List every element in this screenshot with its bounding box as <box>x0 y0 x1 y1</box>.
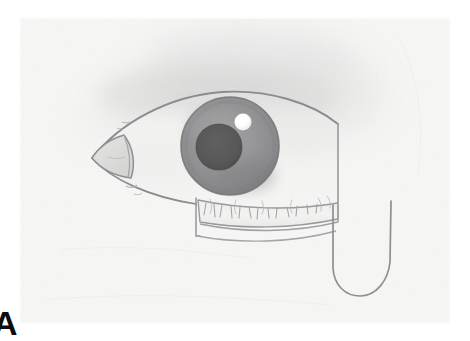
specular-highlight <box>235 114 252 131</box>
panel-label-a: A <box>0 306 17 340</box>
paper-area <box>20 18 450 323</box>
figure-panel-a: A <box>0 0 470 341</box>
eye-drawing-canvas <box>0 0 470 341</box>
iris-group <box>181 97 279 195</box>
